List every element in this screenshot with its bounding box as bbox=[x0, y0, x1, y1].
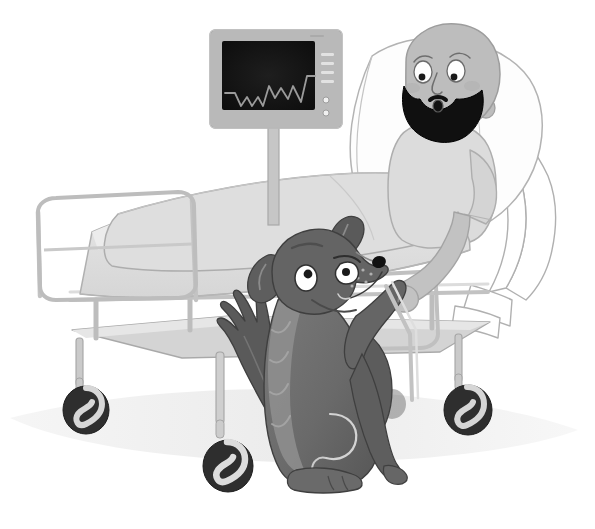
monitor-pole bbox=[268, 125, 279, 225]
wheel bbox=[444, 374, 492, 435]
dog-eye-left bbox=[295, 265, 317, 291]
patient-eye-right bbox=[447, 60, 465, 82]
patient-mouth bbox=[433, 100, 443, 112]
patient-eye-left bbox=[414, 61, 432, 83]
hospital-scene-illustration bbox=[0, 0, 595, 529]
illustration-canvas: Bearded patient in hospital bed greeting… bbox=[0, 0, 595, 529]
wheel bbox=[63, 378, 109, 434]
